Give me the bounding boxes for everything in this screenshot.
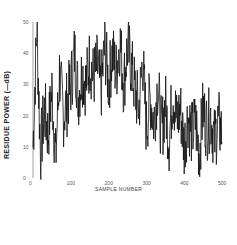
y-tick-label: 20 bbox=[23, 113, 29, 119]
plot-area bbox=[0, 0, 237, 245]
y-tick-label: 30 bbox=[23, 81, 29, 87]
y-tick-label: 10 bbox=[23, 144, 29, 150]
x-tick-label: 400 bbox=[180, 180, 188, 186]
y-axis-label: RESIDUE POWER (—dB) bbox=[3, 60, 15, 170]
series-line bbox=[33, 22, 222, 180]
chart: RESIDUE POWER (—dB) SAMPLE NUMBER 010020… bbox=[0, 0, 237, 245]
x-tick-label: 300 bbox=[142, 180, 150, 186]
y-tick-label: 50 bbox=[23, 19, 29, 25]
x-tick-label: 0 bbox=[29, 180, 32, 186]
x-axis-label: SAMPLE NUMBER bbox=[95, 186, 142, 192]
x-tick-label: 500 bbox=[218, 180, 226, 186]
x-tick-label: 100 bbox=[67, 180, 75, 186]
y-tick-label: 0 bbox=[23, 175, 26, 181]
y-tick-label: 40 bbox=[23, 50, 29, 56]
x-tick-label: 200 bbox=[105, 180, 113, 186]
